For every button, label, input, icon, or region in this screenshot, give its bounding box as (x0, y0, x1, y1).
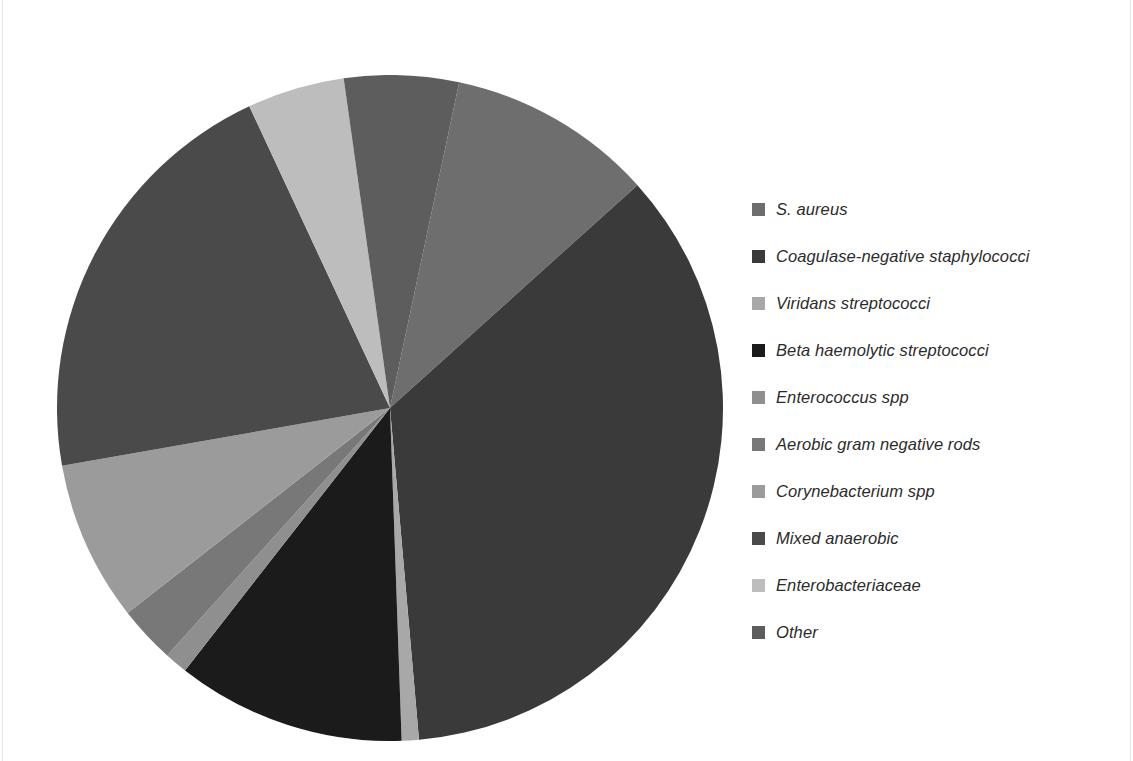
legend-item-label: Beta haemolytic streptococci (776, 341, 989, 360)
chart-legend: S. aureusCoagulase-negative staphylococc… (752, 186, 1127, 656)
legend-swatch-icon (752, 579, 765, 592)
legend-item-label: S. aureus (776, 200, 848, 219)
legend-item[interactable]: Viridans streptococci (752, 280, 1127, 327)
pie-slices-group (57, 75, 723, 741)
legend-item-label: Corynebacterium spp (776, 482, 935, 501)
pie-chart-svg (57, 75, 723, 741)
legend-swatch-icon (752, 250, 765, 263)
legend-item[interactable]: Coagulase-negative staphylococci (752, 233, 1127, 280)
legend-swatch-icon (752, 485, 765, 498)
legend-swatch-icon (752, 297, 765, 310)
legend-swatch-icon (752, 203, 765, 216)
legend-item[interactable]: S. aureus (752, 186, 1127, 233)
legend-item-label: Enterobacteriaceae (776, 576, 921, 595)
legend-item[interactable]: Corynebacterium spp (752, 468, 1127, 515)
legend-item-label: Viridans streptococci (776, 294, 930, 313)
legend-swatch-icon (752, 391, 765, 404)
legend-item-label: Coagulase-negative staphylococci (776, 247, 1030, 266)
legend-item-label: Mixed anaerobic (776, 529, 899, 548)
legend-item[interactable]: Enterococcus spp (752, 374, 1127, 421)
legend-swatch-icon (752, 438, 765, 451)
legend-item-label: Aerobic gram negative rods (776, 435, 980, 454)
legend-item[interactable]: Enterobacteriaceae (752, 562, 1127, 609)
legend-item-label: Other (776, 623, 818, 642)
legend-item[interactable]: Mixed anaerobic (752, 515, 1127, 562)
pie-chart-area (0, 0, 760, 761)
page-root: S. aureusCoagulase-negative staphylococc… (0, 0, 1133, 761)
legend-swatch-icon (752, 344, 765, 357)
legend-item[interactable]: Other (752, 609, 1127, 656)
legend-item[interactable]: Beta haemolytic streptococci (752, 327, 1127, 374)
legend-item-label: Enterococcus spp (776, 388, 909, 407)
legend-item[interactable]: Aerobic gram negative rods (752, 421, 1127, 468)
right-edge-rule (1130, 0, 1131, 761)
legend-swatch-icon (752, 532, 765, 545)
legend-swatch-icon (752, 626, 765, 639)
